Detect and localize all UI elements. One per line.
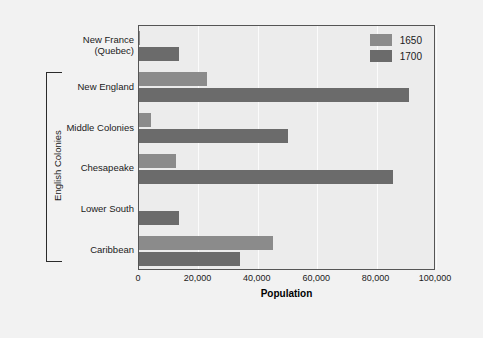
legend-label: 1650 [400, 35, 422, 46]
x-tick-label: 60,000 [302, 273, 330, 283]
legend-item: 1700 [370, 50, 422, 62]
bar [139, 211, 179, 225]
bracket-arm-top [46, 72, 62, 73]
bar-group [139, 195, 434, 225]
bar [139, 31, 140, 45]
bar [139, 72, 207, 86]
legend: 16501700 [366, 32, 426, 68]
bar [139, 88, 409, 102]
legend-swatch [370, 50, 392, 62]
bar [139, 236, 273, 250]
bar-group [139, 113, 434, 143]
x-axis-ticks: 020,00040,00060,00080,000100,000 [138, 273, 435, 287]
x-tick-label: 0 [135, 273, 140, 283]
category-label-line: (Quebec) [8, 45, 134, 56]
category-label: New England [8, 81, 134, 92]
bar-group [139, 236, 434, 266]
category-label: Caribbean [8, 244, 134, 255]
category-label-line: Lower South [8, 203, 134, 214]
legend-label: 1700 [400, 51, 422, 62]
legend-swatch [370, 34, 392, 46]
bar [139, 252, 240, 266]
x-tick-label: 100,000 [419, 273, 452, 283]
x-tick-label: 20,000 [184, 273, 212, 283]
x-tick-label: 40,000 [243, 273, 271, 283]
bracket-spine [46, 72, 47, 262]
legend-item: 1650 [370, 34, 422, 46]
plot-area: 16501700 [138, 25, 435, 270]
bar [139, 170, 393, 184]
chart-figure: New France(Quebec)New EnglandMiddle Colo… [0, 0, 483, 338]
x-axis-title: Population [138, 288, 435, 299]
english-colonies-bracket: English Colonies [46, 72, 70, 262]
bar [139, 113, 151, 127]
bar [139, 129, 288, 143]
category-label: New France(Quebec) [8, 34, 134, 56]
category-label-line: Chesapeake [8, 162, 134, 173]
category-label-line: Middle Colonies [8, 122, 134, 133]
category-label-line: New England [8, 81, 134, 92]
bar [139, 47, 179, 61]
bracket-label: English Colonies [52, 101, 63, 231]
gridline [436, 26, 437, 269]
bar-group [139, 72, 434, 102]
category-label: Lower South [8, 203, 134, 214]
category-label: Chesapeake [8, 162, 134, 173]
bracket-arm-bottom [46, 261, 62, 262]
category-label-line: New France [8, 34, 134, 45]
category-label: Middle Colonies [8, 122, 134, 133]
category-axis-labels: New France(Quebec)New EnglandMiddle Colo… [6, 25, 134, 270]
x-tick-label: 80,000 [362, 273, 390, 283]
bar-group [139, 154, 434, 184]
bar [139, 154, 176, 168]
category-label-line: Caribbean [8, 244, 134, 255]
